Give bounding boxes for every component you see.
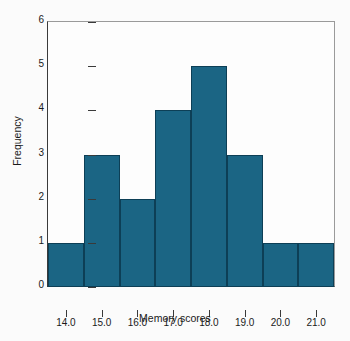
histogram-bar (155, 110, 191, 287)
y-tick-mark (88, 66, 96, 67)
histogram-figure: 012345614.015.016.017.018.019.020.021.0 … (0, 0, 350, 341)
histogram-bar (227, 155, 263, 288)
plot-area: 012345614.015.016.017.018.019.020.021.0 (48, 22, 334, 287)
y-tick-label: 3 (38, 148, 44, 158)
y-tick-label: 0 (38, 280, 44, 290)
histogram-bar (298, 243, 334, 287)
histogram-bar (84, 155, 120, 288)
x-axis-title: Memory scores (0, 312, 350, 324)
y-tick-mark (88, 199, 96, 200)
y-tick-label: 1 (38, 236, 44, 246)
y-tick-mark (88, 287, 96, 288)
y-tick-mark (88, 155, 96, 156)
histogram-bar (48, 243, 84, 287)
histogram-bar (263, 243, 299, 287)
y-tick-label: 4 (38, 103, 44, 113)
y-tick-mark (88, 110, 96, 111)
y-tick-label: 2 (38, 192, 44, 202)
histogram-bar (120, 199, 156, 287)
y-tick-label: 6 (38, 15, 44, 25)
y-axis-title: Frequency (11, 81, 23, 201)
y-tick-mark (88, 22, 96, 23)
y-tick-mark (88, 243, 96, 244)
histogram-bar (191, 66, 227, 287)
y-tick-label: 5 (38, 59, 44, 69)
